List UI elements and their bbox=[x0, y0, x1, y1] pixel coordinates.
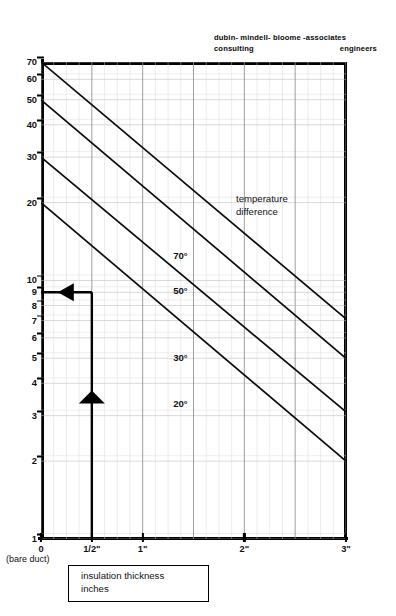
y-axis-tick-mark bbox=[37, 197, 44, 199]
firm-subtitle: consulting engineers bbox=[214, 44, 377, 54]
y-axis-tick-mark bbox=[37, 74, 44, 76]
firm-engineers-label: engineers bbox=[340, 44, 377, 54]
x-axis-tick-mark bbox=[243, 533, 245, 542]
legend-title-line2: difference bbox=[236, 206, 288, 219]
x-axis-tick-mark bbox=[40, 533, 42, 542]
y-axis-tick-mark bbox=[37, 94, 44, 96]
y-axis-tick-label: 8 bbox=[3, 301, 37, 310]
chart-page: dubin- mindell- bloome -associates consu… bbox=[0, 0, 396, 616]
y-axis-tick-mark bbox=[37, 332, 44, 334]
x-axis-tick-label: 1" bbox=[138, 544, 148, 554]
series-label-50°: 50° bbox=[173, 285, 188, 296]
y-axis-tick-label: 1 bbox=[3, 535, 37, 544]
y-axis-tick-mark bbox=[37, 152, 44, 154]
legend-title-line1: temperature bbox=[236, 193, 288, 206]
y-axis-tick-label: 30 bbox=[3, 153, 37, 162]
chart-plot-area bbox=[41, 62, 346, 539]
series-label-20°: 20° bbox=[173, 398, 188, 409]
firm-header: dubin- mindell- bloome -associates consu… bbox=[214, 33, 392, 54]
firm-consulting-label: consulting bbox=[214, 44, 254, 54]
x-axis-tick-mark bbox=[142, 533, 144, 542]
caption-line1: insulation thickness bbox=[81, 570, 208, 583]
firm-name: dubin- mindell- bloome -associates bbox=[214, 33, 392, 43]
y-axis-tick-label: 70 bbox=[3, 58, 37, 67]
y-axis-tick-mark bbox=[37, 57, 44, 59]
y-axis-tick-mark bbox=[37, 456, 44, 458]
y-axis-tick-label: 60 bbox=[3, 75, 37, 84]
y-axis-tick-label: 5 bbox=[3, 354, 37, 363]
y-axis-tick-mark bbox=[37, 410, 44, 412]
y-axis-tick-label: 2 bbox=[3, 457, 37, 466]
legend-title: temperature difference bbox=[236, 193, 288, 218]
x-axis-caption-box: insulation thickness inches bbox=[68, 565, 209, 602]
x-axis-tick-label: 0 bbox=[38, 544, 43, 554]
y-axis-tick-label: 9 bbox=[3, 288, 37, 297]
y-axis-tick-label: 3 bbox=[3, 411, 37, 420]
y-axis-tick-mark bbox=[37, 119, 44, 121]
y-axis-tick-mark bbox=[37, 378, 44, 380]
y-axis-tick-mark bbox=[37, 300, 44, 302]
chart-reading-arrows bbox=[41, 62, 346, 539]
y-axis-tick-label: 10 bbox=[3, 276, 37, 285]
y-axis-tick-label: 7 bbox=[3, 316, 37, 325]
x-axis-tick-label: 2" bbox=[240, 544, 250, 554]
bare-duct-note: (bare duct) bbox=[6, 554, 50, 564]
y-axis-tick-mark bbox=[37, 353, 44, 355]
caption-line2: inches bbox=[81, 583, 208, 596]
y-axis-tick-mark bbox=[37, 287, 44, 289]
y-axis-tick-label: 20 bbox=[3, 198, 37, 207]
x-axis-tick-label: 1/2" bbox=[83, 544, 100, 554]
y-axis-tick-mark bbox=[37, 315, 44, 317]
y-axis-tick-label: 50 bbox=[3, 95, 37, 104]
y-axis-tick-label: 6 bbox=[3, 333, 37, 342]
y-axis-tick-label: 40 bbox=[3, 120, 37, 129]
series-label-70°: 70° bbox=[173, 250, 188, 261]
y-axis-tick-mark bbox=[37, 275, 44, 277]
x-axis-tick-mark bbox=[91, 533, 93, 542]
series-label-30°: 30° bbox=[173, 352, 188, 363]
x-axis-tick-mark bbox=[345, 533, 347, 542]
x-axis-tick-label: 3" bbox=[341, 544, 351, 554]
y-axis-tick-label: 4 bbox=[3, 379, 37, 388]
